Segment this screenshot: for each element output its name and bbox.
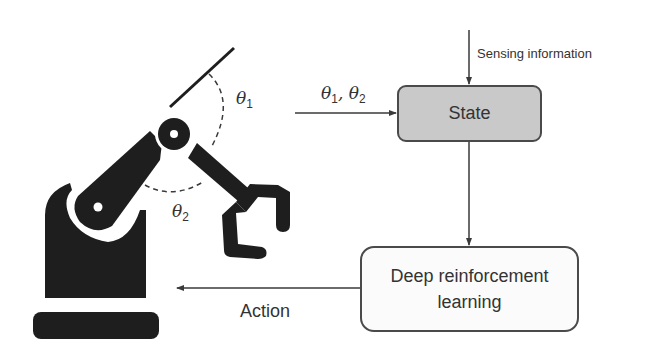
state-node-label: State: [448, 103, 490, 124]
drl-node-label-line2: learning: [390, 289, 548, 315]
angles-input-label: θ1, θ2: [321, 83, 366, 106]
robot-upper-arm: [188, 143, 248, 201]
theta1-arc: [209, 74, 223, 146]
state-node: State: [397, 85, 542, 142]
deep-reinforcement-learning-node: Deep reinforcement learning: [360, 246, 579, 332]
sensing-information-label: Sensing information: [477, 46, 592, 61]
theta2-label: θ2: [172, 201, 189, 224]
drl-node-label-line1: Deep reinforcement: [390, 263, 548, 289]
reference-line: [170, 48, 234, 107]
action-label: Action: [240, 301, 290, 322]
theta1-label: θ1: [236, 88, 253, 111]
robot-base-plate: [33, 312, 159, 339]
robot-gripper-lower: [222, 202, 267, 259]
robot-base-joint: [94, 203, 103, 212]
theta2-arc: [145, 182, 203, 192]
robot-lower-arm: [74, 131, 162, 230]
